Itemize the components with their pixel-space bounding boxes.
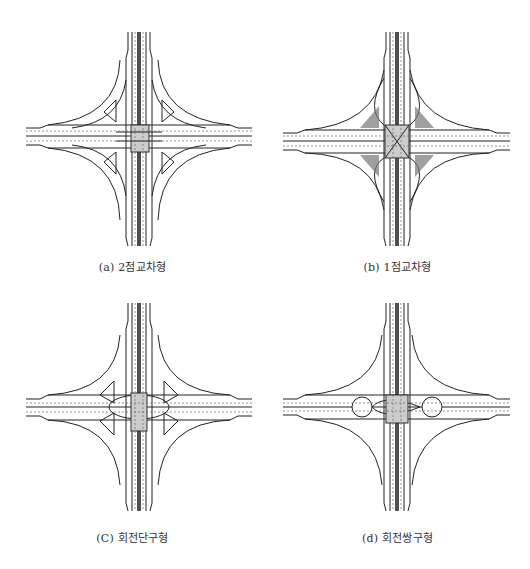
caption-a: (a) 2점교차형 [0,258,265,274]
panel-a: (a) 2점교차형 [0,0,265,284]
panel-b: (b) 1점교차형 [265,0,530,284]
caption-d: (d) 회전쌍구형 [265,529,530,545]
panel-c: (C) 회전단구형 [0,285,265,569]
caption-c: (C) 회전단구형 [0,529,265,545]
interchange-diagram-a [0,0,265,284]
interchange-diagram-d [265,285,530,569]
interchange-diagram-c [0,285,265,569]
panel-d: (d) 회전쌍구형 [265,285,530,569]
interchange-diagram-b [265,0,530,284]
caption-b: (b) 1점교차형 [265,258,530,274]
